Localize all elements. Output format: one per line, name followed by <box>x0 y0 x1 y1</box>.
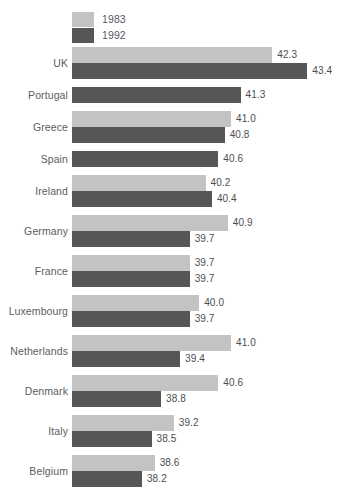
bar-value-label: 40.2 <box>211 175 231 191</box>
bar-1983 <box>72 335 231 351</box>
bar-value-label: 38.6 <box>160 455 180 471</box>
category-label: Italy <box>0 425 68 437</box>
chart-row: Denmark40.638.8 <box>0 375 340 415</box>
chart-row: Ireland40.240.4 <box>0 175 340 215</box>
chart-row: Spain40.6 <box>0 151 340 175</box>
category-label: Belgium <box>0 465 68 477</box>
category-label: Ireland <box>0 185 68 197</box>
bar-value-label: 39.7 <box>195 271 215 287</box>
bar-value-label: 39.7 <box>195 311 215 327</box>
chart-row: France39.739.7 <box>0 255 340 295</box>
category-label: France <box>0 265 68 277</box>
legend-item-1983: 1983 <box>72 11 126 27</box>
bar-1983 <box>72 455 155 471</box>
bar-1983 <box>72 215 228 231</box>
bar-value-label: 39.4 <box>185 351 205 367</box>
bar-1992 <box>72 127 225 143</box>
chart-row: Germany40.939.7 <box>0 215 340 255</box>
bar-1983 <box>72 255 190 271</box>
bar-1992 <box>72 351 180 367</box>
bar-1983 <box>72 375 218 391</box>
category-label: Denmark <box>0 385 68 397</box>
category-label: Germany <box>0 225 68 237</box>
chart-row: Portugal41.3 <box>0 87 340 111</box>
chart-row: Belgium38.638.2 <box>0 455 340 491</box>
legend-swatch-icon <box>72 12 94 27</box>
category-label: Portugal <box>0 89 68 101</box>
chart-row: UK42.343.4 <box>0 47 340 87</box>
bar-value-label: 41.3 <box>246 87 266 103</box>
bar-value-label: 39.2 <box>179 415 199 431</box>
legend-label: 1983 <box>102 14 126 25</box>
chart-row: Netherlands41.039.4 <box>0 335 340 375</box>
bar-1992 <box>72 231 190 247</box>
bar-1992 <box>72 311 190 327</box>
legend-swatch-icon <box>72 28 94 43</box>
bar-value-label: 42.3 <box>277 47 297 63</box>
bar-value-label: 38.5 <box>157 431 177 447</box>
bar-1992 <box>72 191 212 207</box>
chart-legend: 1983 1992 <box>72 11 192 43</box>
bar-value-label: 39.7 <box>195 231 215 247</box>
bar-value-label: 40.9 <box>233 215 253 231</box>
bar-chart: 1983 1992 UK42.343.4Portugal41.3Greece41… <box>0 0 340 491</box>
chart-row: Italy39.238.5 <box>0 415 340 455</box>
bar-1992 <box>72 271 190 287</box>
bar-1983 <box>72 295 199 311</box>
bar-1992 <box>72 391 161 407</box>
bar-value-label: 40.8 <box>230 127 250 143</box>
bar-value-label: 38.2 <box>147 471 167 487</box>
chart-row: Greece41.040.8 <box>0 111 340 151</box>
category-label: UK <box>0 57 68 69</box>
bar-1983 <box>72 175 206 191</box>
bar-value-label: 41.0 <box>236 335 256 351</box>
bar-1983 <box>72 415 174 431</box>
category-label: Spain <box>0 153 68 165</box>
bar-value-label: 39.7 <box>195 255 215 271</box>
legend-label: 1992 <box>102 30 126 41</box>
chart-row: Luxembourg40.039.7 <box>0 295 340 335</box>
legend-item-1992: 1992 <box>72 27 126 43</box>
bar-value-label: 38.8 <box>166 391 186 407</box>
bar-1992 <box>72 431 152 447</box>
bar-1983 <box>72 111 231 127</box>
bar-1992 <box>72 471 142 487</box>
bar-value-label: 40.4 <box>217 191 237 207</box>
bar-1992 <box>72 87 241 103</box>
bar-1983 <box>72 47 272 63</box>
bar-value-label: 40.6 <box>223 151 243 167</box>
bar-value-label: 40.0 <box>204 295 224 311</box>
bar-value-label: 40.6 <box>223 375 243 391</box>
bar-value-label: 41.0 <box>236 111 256 127</box>
bar-value-label: 43.4 <box>312 63 332 79</box>
category-label: Luxembourg <box>0 305 68 317</box>
category-label: Greece <box>0 121 68 133</box>
category-label: Netherlands <box>0 345 68 357</box>
cropped-title <box>0 0 340 4</box>
bar-1992 <box>72 63 307 79</box>
chart-rows: UK42.343.4Portugal41.3Greece41.040.8Spai… <box>0 47 340 491</box>
bar-1992 <box>72 151 218 167</box>
